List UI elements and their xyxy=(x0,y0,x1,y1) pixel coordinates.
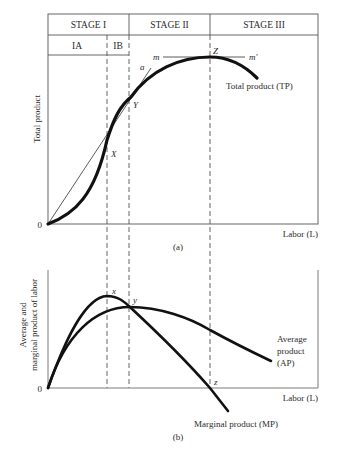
panel-a-caption: (a) xyxy=(173,242,183,252)
origin-a-label: 0 xyxy=(38,220,43,230)
ap-label-line-2: product xyxy=(277,346,305,356)
point-y-upper-label: Y xyxy=(133,100,139,110)
y-axis-b-label-line-1: Average and xyxy=(18,302,28,348)
ap-label-line-3: (AP) xyxy=(277,358,295,368)
stage-1-label: STAGE I xyxy=(71,20,106,30)
ap-label-line-1: Average xyxy=(277,334,307,344)
y-axis-a-label: Total product xyxy=(32,94,42,143)
stage-2-label: STAGE II xyxy=(150,20,189,30)
marginal-product-curve xyxy=(48,296,228,411)
panel-a: STAGE I STAGE II STAGE III IA IB X Y Z a… xyxy=(32,14,318,388)
point-x-upper-label: X xyxy=(110,149,117,159)
point-z-upper-label: Z xyxy=(213,46,219,56)
point-m-label: m xyxy=(153,52,160,62)
point-a-label: a xyxy=(140,62,145,72)
panel-b-caption: (b) xyxy=(173,432,184,442)
stage-3-label: STAGE III xyxy=(243,20,285,30)
panel-b: x y z Average product (AP) Marginal prod… xyxy=(18,270,318,442)
point-m-prime-label: m′ xyxy=(249,52,258,62)
x-axis-b-label: Labor (L) xyxy=(283,393,318,403)
x-axis-a-label: Labor (L) xyxy=(283,229,318,239)
point-x-lower-label: x xyxy=(111,286,116,296)
substage-ia-label: IA xyxy=(72,41,82,51)
substage-ib-label: IB xyxy=(113,41,123,51)
mp-label: Marginal product (MP) xyxy=(194,419,278,429)
point-y-lower-label: y xyxy=(132,295,137,305)
average-product-curve xyxy=(48,307,271,388)
origin-b-label: 0 xyxy=(38,384,43,394)
point-z-lower-label: z xyxy=(213,377,218,387)
tp-curve-label: Total product (TP) xyxy=(226,81,293,91)
production-stages-diagram: STAGE I STAGE II STAGE III IA IB X Y Z a… xyxy=(0,0,341,449)
y-axis-b-label-line-2: marginal product of labor xyxy=(29,279,39,371)
